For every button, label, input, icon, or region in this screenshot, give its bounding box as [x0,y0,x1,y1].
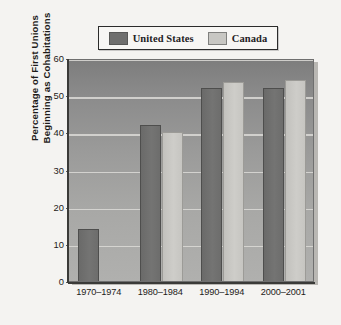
x-tick-label: 1970–1974 [68,287,130,297]
bar-canada-3 [285,80,306,281]
y-tick-label: 20 [34,202,64,213]
legend-entry-canada: Canada [208,32,268,45]
bar-canada-2 [223,82,244,281]
y-tick-label: 10 [34,239,64,250]
y-tick-label: 40 [34,127,64,138]
y-tick-label: 0 [34,276,64,287]
bar-united-states-2 [201,88,222,281]
bar-canada-1 [162,132,183,281]
legend-label-canada: Canada [232,33,268,44]
legend-swatch-united-states [109,32,128,45]
chart-legend: United States Canada [98,26,278,50]
legend-swatch-canada [208,32,227,45]
x-tick-label: 1980–1984 [130,287,192,297]
x-tick-label: 2000–2001 [253,287,315,297]
legend-entry-united-states: United States [109,32,194,45]
legend-label-united-states: United States [133,33,194,44]
y-axis-tick-labels: 0102030405060 [34,59,64,282]
y-tick-label: 50 [34,90,64,101]
x-tick-label: 1990–1994 [191,287,253,297]
gridline [69,60,313,61]
bar-united-states-1 [140,125,161,281]
x-axis-line [68,282,315,284]
bar-united-states-0 [78,229,99,281]
x-axis-tick-labels: 1970–19741980–19841990–19942000–2001 [68,287,314,297]
y-tick-label: 30 [34,165,64,176]
y-axis-line [67,59,69,283]
y-tick-label: 60 [34,53,64,64]
plot-area [68,59,314,282]
bar-united-states-3 [263,88,284,281]
bar-chart-figure: United States Canada Percentage of First… [0,0,341,325]
